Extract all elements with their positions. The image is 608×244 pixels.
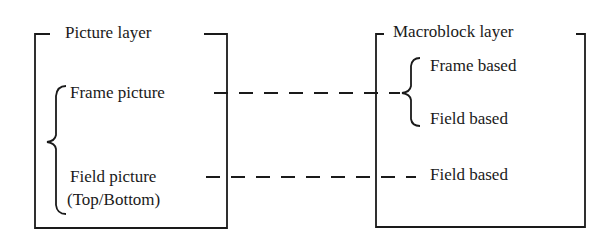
- left-brace: [47, 86, 66, 214]
- top-bottom-label: (Top/Bottom): [67, 190, 160, 210]
- right-brace: [402, 58, 420, 126]
- field-based-label-2: Field based: [430, 165, 508, 185]
- frame-based-label: Frame based: [430, 56, 516, 76]
- field-picture-label: Field picture: [70, 167, 158, 187]
- field-based-label-1: Field based: [430, 109, 508, 129]
- frame-picture-label: Frame picture: [70, 83, 167, 103]
- macroblock-layer-title: Macroblock layer: [389, 22, 517, 42]
- picture-layer-title: Picture layer: [61, 23, 155, 43]
